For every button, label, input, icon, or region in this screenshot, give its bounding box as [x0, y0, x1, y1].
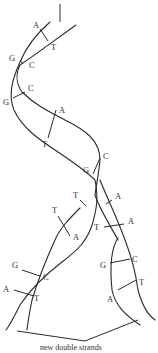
- base-label: A: [33, 20, 40, 30]
- base-pair-rung: [40, 29, 48, 41]
- base-label: A: [59, 105, 66, 115]
- base-label: C: [29, 60, 35, 70]
- caption-connector-right: [85, 320, 138, 341]
- base-label: T: [139, 277, 145, 287]
- diagram-caption: new double strands: [40, 343, 102, 352]
- base-label: G: [83, 165, 89, 175]
- base-pair-rung: [104, 224, 124, 227]
- base-label: C: [103, 151, 109, 161]
- caption-connector-left: [17, 331, 85, 341]
- base-pair-rung: [13, 92, 25, 98]
- base-label: G: [100, 260, 106, 270]
- right-new-strand: [111, 238, 140, 325]
- base-label: G: [12, 260, 18, 270]
- base-stub: [80, 200, 86, 206]
- base-pair-rung: [110, 259, 130, 263]
- base-label: T: [73, 190, 79, 200]
- base-pair-rung: [22, 270, 40, 276]
- base-label: G: [9, 53, 15, 63]
- parent-strand-2: [17, 25, 118, 240]
- base-label: T: [42, 139, 48, 149]
- base-label: A: [115, 191, 122, 201]
- base-label: A: [73, 232, 80, 242]
- base-label: C: [132, 254, 138, 264]
- base-label: T: [52, 205, 58, 215]
- base-pair-rung: [48, 110, 56, 138]
- parent-strand-1: [6, 22, 97, 330]
- base-label: A: [107, 294, 114, 304]
- dna-replication-diagram: A T G C G C A T C G T A T A G C A T T A …: [0, 0, 158, 353]
- base-label: A: [128, 216, 135, 226]
- base-pair-rung: [118, 280, 136, 290]
- base-pair-rung: [58, 216, 70, 236]
- base-label: T: [51, 42, 57, 52]
- base-label: A: [3, 284, 10, 294]
- base-label: C: [28, 83, 34, 93]
- base-label: T: [94, 222, 100, 232]
- base-label: G: [3, 97, 9, 107]
- base-label: C: [43, 272, 49, 282]
- base-label: T: [34, 293, 40, 303]
